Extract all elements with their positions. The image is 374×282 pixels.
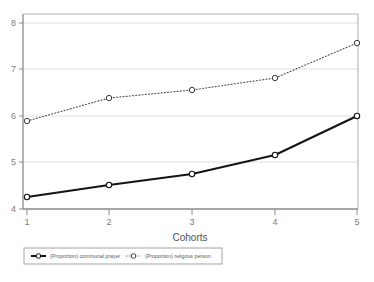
y-tick-label-4: 4 <box>11 204 16 214</box>
x-tick-label-1: 1 <box>24 217 29 227</box>
data-point <box>354 113 359 118</box>
y-tick-label-5: 5 <box>11 157 16 167</box>
circle-marker-icon <box>131 254 136 259</box>
data-point <box>189 87 194 92</box>
data-point <box>272 152 277 157</box>
legend-label-2: (Proportion) religous person <box>145 253 211 259</box>
circle-marker-icon <box>36 254 41 259</box>
y-tick-label-8: 8 <box>11 18 16 28</box>
data-point <box>24 194 29 199</box>
data-point <box>189 171 194 176</box>
x-axis-title: Cohorts <box>172 232 207 243</box>
data-point <box>272 75 277 80</box>
x-tick-label-2: 2 <box>106 217 111 227</box>
data-point <box>24 118 29 123</box>
chart-figure: 8 7 6 5 4 1 2 3 4 5 Cohorts <box>0 0 374 282</box>
data-point <box>354 40 359 45</box>
x-tick-label-3: 3 <box>189 217 194 227</box>
line-chart: 8 7 6 5 4 1 2 3 4 5 Cohorts <box>0 0 374 282</box>
y-tick-label-7: 7 <box>11 64 16 74</box>
x-tick-label-5: 5 <box>354 217 359 227</box>
chart-legend: (Proportion) communal prayer (Proportion… <box>24 248 222 264</box>
data-point <box>106 95 111 100</box>
y-tick-label-6: 6 <box>11 111 16 121</box>
data-point <box>106 182 111 187</box>
x-tick-label-4: 4 <box>272 217 277 227</box>
legend-label-1: (Proportion) communal prayer <box>50 253 121 259</box>
